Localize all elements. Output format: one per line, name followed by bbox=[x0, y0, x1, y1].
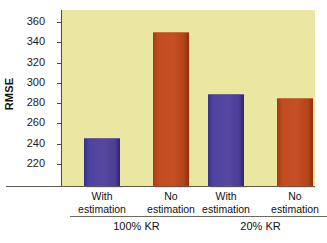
x-axis-line bbox=[6, 186, 315, 187]
y-tick-label: 240 bbox=[5, 137, 45, 149]
y-tick-label: 320 bbox=[5, 56, 45, 68]
y-tick-label: 220 bbox=[5, 157, 45, 169]
bar[interactable] bbox=[84, 138, 120, 186]
y-tick-mark bbox=[57, 123, 62, 124]
y-tick-mark bbox=[57, 63, 62, 64]
y-tick-label: 360 bbox=[5, 15, 45, 27]
bar-face bbox=[84, 138, 120, 186]
x-category-label-line1: With bbox=[186, 190, 266, 203]
bar-face bbox=[277, 98, 313, 186]
bar[interactable] bbox=[208, 94, 244, 186]
x-category-label: Noestimation bbox=[255, 190, 327, 215]
y-tick-mark bbox=[57, 144, 62, 145]
x-category-label: Withestimation bbox=[186, 190, 266, 215]
x-category-label-line1: No bbox=[255, 190, 327, 203]
bar[interactable] bbox=[153, 32, 189, 186]
bar-face bbox=[208, 94, 244, 186]
group-rule bbox=[194, 216, 327, 217]
x-category-label-line2: estimation bbox=[255, 203, 327, 216]
y-tick-mark bbox=[57, 42, 62, 43]
y-tick-mark bbox=[57, 22, 62, 23]
group-label: 100% KR bbox=[70, 220, 203, 232]
y-tick-label: 300 bbox=[5, 76, 45, 88]
bar-face bbox=[153, 32, 189, 186]
bar-chart-figure: RMSE 360340320300280260240220 Withestima… bbox=[0, 0, 327, 243]
y-tick-label: 260 bbox=[5, 116, 45, 128]
x-category-label-line1: With bbox=[62, 190, 142, 203]
group-label: 20% KR bbox=[194, 220, 327, 232]
y-tick-mark bbox=[57, 83, 62, 84]
bar[interactable] bbox=[277, 98, 313, 186]
y-tick-mark bbox=[57, 164, 62, 165]
plot-area: 360340320300280260240220 bbox=[62, 10, 315, 186]
group-rule bbox=[70, 216, 203, 217]
x-category-label: Withestimation bbox=[62, 190, 142, 215]
y-tick-label: 340 bbox=[5, 35, 45, 47]
y-tick-label: 280 bbox=[5, 96, 45, 108]
x-category-label-line2: estimation bbox=[186, 203, 266, 216]
y-tick-mark bbox=[57, 103, 62, 104]
y-axis-line bbox=[61, 10, 62, 186]
x-category-label-line2: estimation bbox=[62, 203, 142, 216]
